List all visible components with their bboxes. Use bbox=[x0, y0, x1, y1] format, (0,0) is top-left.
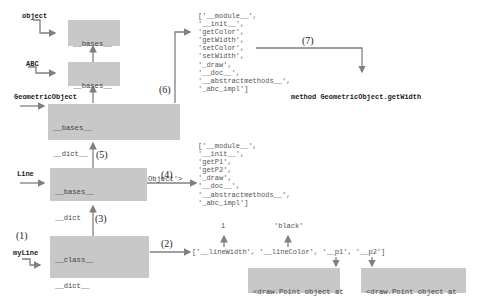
box-line: __bases__ bbox=[73, 40, 115, 49]
step-2: (2) bbox=[161, 238, 173, 249]
box-line: <draw.Point object at bbox=[366, 288, 461, 297]
box-line: <draw.Point object at bbox=[253, 288, 335, 297]
point2-instance-box: <draw.Point object at 0x000001B8A0C4CB70… bbox=[361, 268, 466, 293]
step-4: (4) bbox=[161, 169, 173, 180]
line-color-value: 'black' bbox=[274, 222, 303, 230]
line-class-box: __bases__ __dict <class 'draw.Line'> bbox=[50, 168, 147, 201]
step-6: (6) bbox=[159, 84, 171, 95]
geometric-object-class-box: __bases__ __dict__ <class 'draw.Geometri… bbox=[48, 104, 180, 140]
box-line: __bases__ bbox=[55, 188, 142, 197]
box-line: __dict__ bbox=[53, 150, 175, 159]
box-line: __class__ bbox=[55, 256, 144, 265]
geometric-object-dict-list: ['__module__', '__init__', 'getColor', '… bbox=[198, 12, 290, 93]
step-5: (5) bbox=[96, 149, 108, 160]
label-geometric-object: GeometricObject bbox=[14, 93, 77, 101]
box-line: __bases__ bbox=[53, 124, 175, 133]
my-line-instance-box: __class__ __dict__ <draw.Line object at … bbox=[50, 236, 149, 278]
line-dict-list: ['__module__', '__init__', 'getP1', 'get… bbox=[198, 142, 290, 207]
abc-class-box: __bases__ __dict__ bbox=[68, 62, 120, 86]
label-my-line: myLine bbox=[13, 249, 38, 257]
step-7: (7) bbox=[302, 35, 314, 46]
step-3: (3) bbox=[95, 213, 107, 224]
label-abc: ABC bbox=[26, 60, 39, 68]
my-line-dict-list: ['__lineWidth', '__lineColor', '__p1', '… bbox=[192, 248, 385, 256]
line-width-value: 1 bbox=[221, 222, 225, 230]
label-line: Line bbox=[17, 170, 34, 178]
method-label: method GeometricObject.getWidth bbox=[291, 93, 421, 101]
object-class-box: __bases__ __dict__ bbox=[68, 20, 120, 46]
point1-instance-box: <draw.Point object at 0x000001B8A0C4CA58… bbox=[248, 268, 340, 293]
label-object: object bbox=[22, 12, 47, 20]
step-1: (1) bbox=[16, 230, 28, 241]
box-line: __bases__ bbox=[73, 82, 115, 91]
box-line: __dict__ bbox=[55, 282, 144, 291]
